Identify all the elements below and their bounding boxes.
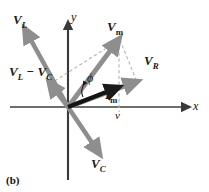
label-vl-minus-vc: VL − VC (9, 65, 52, 81)
label-x-axis: x (193, 100, 198, 112)
label-phi: ϕ (87, 72, 93, 84)
label-vm: Vm (107, 20, 123, 36)
dashed-vlc-to-vm (50, 40, 119, 84)
label-projection-v: v (115, 110, 120, 121)
label-y-axis: y (71, 11, 76, 23)
figure-caption: (b) (6, 175, 19, 186)
vector-vc (68, 107, 97, 150)
label-vr: VR (144, 54, 159, 70)
label-vc: VC (91, 157, 106, 173)
label-im: Im (105, 88, 117, 104)
label-vl: VL (13, 13, 27, 29)
dashed-vm-to-vr (120, 40, 137, 82)
